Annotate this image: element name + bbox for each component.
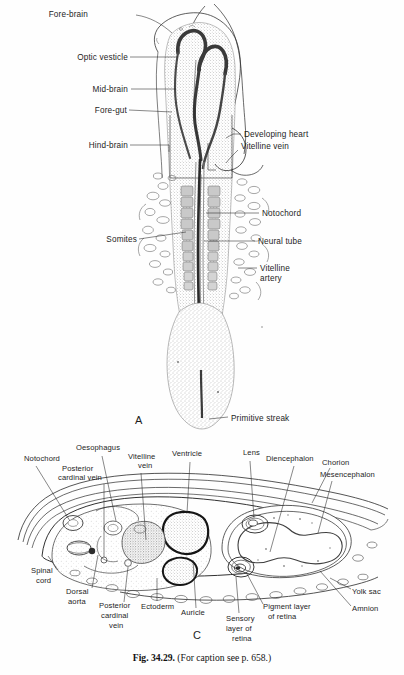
extra-vesicle-right [367,542,377,548]
tail-bud [167,303,234,429]
ventricle [163,512,208,554]
label-post-card-vein-3: vein [109,621,123,630]
leader-ventricle [187,462,190,513]
label-fore-gut: Fore-gut [95,106,128,115]
label-sensory-retina-3: retina [232,634,252,643]
panel-letter-a: A [135,414,143,426]
label-dorsal-aorta-1: Dorsal [66,587,89,596]
label-spinal-cord-1: Spinal [31,566,53,575]
caption-number: Fig. 34.29. [133,652,175,663]
label-sensory-retina-1: Sensory [226,614,255,623]
label-notochord-c: Notochord [24,454,60,463]
label-post-card-vein-top-1: Posterior [62,464,94,473]
label-ventricle: Ventricle [172,449,202,458]
label-pigment-retina-1: Pigment layer [263,602,311,611]
leader-fore-brain [136,15,172,33]
auricle [163,558,197,585]
membrane-tip [371,519,388,530]
label-vitelline-vein-c-2: vein [138,461,152,470]
leader-hind-brain [130,145,169,152]
label-dorsal-aorta-2: aorta [68,597,86,606]
leader-sensory-retina [236,577,239,613]
panel-a-drawing [138,4,268,429]
label-lens: Lens [243,448,260,457]
label-primitive-streak: Primitive streak [231,414,290,423]
panel-c-drawing [18,473,388,603]
label-post-card-vein-top-2: cardinal vein [58,473,102,482]
label-diencephalon: Diencephalon [266,454,314,463]
label-post-card-vein-2: cardinal [101,611,129,620]
primitive-streak-dark [201,370,202,418]
extra-vesicle-right-2 [353,555,364,561]
lens-lower [236,566,241,570]
label-fore-brain: Fore-brain [49,10,89,19]
proamnion-left-lower [156,52,162,178]
label-yolk-sac: Yolk sac [352,587,381,596]
label-auricle: Auricle [181,608,205,617]
label-optic-vesticle: Optic vesticle [77,53,128,62]
label-vitelline-vein: Vitelline vein [241,142,289,151]
label-spinal-cord-2: cord [36,576,51,585]
label-somites: Somites [106,235,137,244]
caption-text: (For caption see p. 658.) [177,652,271,664]
label-vitelline-artery-line2: artery [260,274,283,283]
label-hind-brain: Hind-brain [89,141,129,150]
figure-page: Fore-brain Optic vesticle Mid-brain Fore… [0,0,404,675]
leader-lens [250,461,254,518]
label-vitelline-vein-c-1: Vitelline [128,452,155,461]
label-mesencephalon: Mesencephalon [320,470,375,479]
label-post-card-vein-1: Posterior [99,601,131,610]
label-vitelline-artery-line1: Vitelline [260,264,290,273]
svg-text:Fig. 34.29. (For caption see p: Fig. 34.29. (For caption see p. 658.) [133,652,271,664]
figure-caption: Fig. 34.29. (For caption see p. 658.) [133,652,271,664]
label-chorion: Chorion [322,458,349,467]
panel-letter-c: C [193,629,201,641]
dorsal-aorta [89,548,95,554]
label-mid-brain: Mid-brain [93,85,129,94]
label-oesophagus: Oesophagus [76,443,120,452]
label-amnion: Amnion [352,604,378,613]
lens-upper [249,520,258,526]
label-pigment-retina-2: of retina [268,612,297,621]
label-developing-heart: Developing heart [244,130,309,139]
label-notochord-a: Notochord [262,209,301,218]
label-sensory-retina-2: layer of [226,624,252,633]
vitelline-vein-drawing [231,165,263,175]
leader-amnion [320,571,351,606]
label-neural-tube: Neural tube [258,237,302,246]
label-ectoderm: Ectoderm [141,602,174,611]
leader-fore-gut [129,110,172,112]
embryology-figure: Fore-brain Optic vesticle Mid-brain Fore… [0,0,404,675]
